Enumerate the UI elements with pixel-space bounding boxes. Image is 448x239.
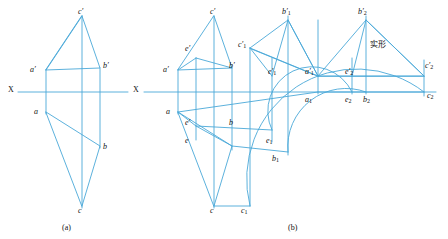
label-c-a: c: [78, 207, 82, 215]
label-c1-b: c1: [241, 207, 248, 215]
label-c-prime-a: c′: [78, 8, 83, 16]
label-b2-prime-b: b′2: [358, 8, 367, 16]
label-e1-prime-b: e′1: [268, 68, 276, 76]
label-a-b: a: [166, 108, 170, 116]
axis-label-b: X: [133, 86, 139, 94]
projection-diagram: [0, 0, 448, 239]
label-c-prime-b: c′: [210, 8, 215, 16]
axis-label-a: X: [8, 86, 14, 94]
label-e2-prime-b: e′2: [345, 68, 353, 76]
label-b2-b: b2: [363, 96, 370, 104]
figure-root: c′ a′ b′ X a b c (a) c′ b′1 b′2 e′ c′1 实…: [0, 0, 448, 239]
label-c1-prime-b: c′1: [238, 41, 246, 49]
label-b1-b: b1: [272, 155, 279, 163]
label-a-prime-b: a′: [163, 66, 169, 74]
label-b-a: b: [103, 143, 107, 151]
label-b-prime-b: b′: [229, 62, 235, 70]
label-a-prime-a: a′: [30, 66, 36, 74]
label-true-shape-note: 实形: [370, 41, 386, 49]
label-c-b: c: [210, 207, 214, 215]
edge-a-c-upper: [46, 16, 82, 70]
triangle-upper-a: [46, 16, 100, 70]
label-a1-prime-b: a′1: [305, 68, 314, 76]
label-e1-b: e1: [266, 137, 273, 145]
label-a1-b: a1: [305, 96, 312, 104]
label-c2-prime-b: c′2: [425, 62, 433, 70]
label-e2-b: e2: [345, 96, 352, 104]
label-b1-prime-b: b′1: [282, 8, 291, 16]
label-e-prime-upper-b: e′: [185, 45, 190, 53]
edge-e-a-upper-b: [178, 58, 196, 70]
arc-b1-b2: [288, 88, 366, 152]
label-a-a: a: [34, 108, 38, 116]
plan-line-e-e1: [196, 126, 272, 130]
plan-line-a-a1: [178, 92, 318, 112]
label-e-b: e: [185, 137, 189, 145]
triangle-upper-b: [178, 16, 232, 70]
caption-a: (a): [62, 224, 71, 232]
label-b-b: b: [229, 119, 233, 127]
label-c2-b: c2: [427, 92, 434, 100]
triangle-lower-a: [46, 112, 100, 206]
caption-b: (b): [288, 224, 297, 232]
label-b-prime-a: b′: [103, 62, 109, 70]
label-e-prime-lower-b: e′: [185, 119, 190, 127]
plan-line-b-b1: [232, 146, 288, 152]
